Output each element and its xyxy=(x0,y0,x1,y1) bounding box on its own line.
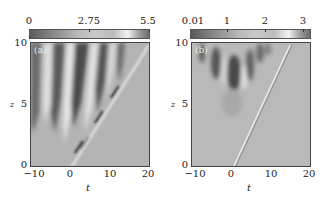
colorbar-a-tick xyxy=(29,36,30,39)
x-tick-label: 10 xyxy=(265,169,278,179)
y-tick-label: 5 xyxy=(13,99,27,109)
colorbar-b xyxy=(190,29,311,39)
y-tick-label: 10 xyxy=(13,38,27,48)
colorbar-b-tick xyxy=(303,29,304,32)
colorbar-a-tick xyxy=(149,29,150,32)
x-axis-label: t xyxy=(86,182,90,193)
heatmap-panel-a: (a) xyxy=(30,42,150,167)
colorbar-a-tick-label: 5.5 xyxy=(140,16,156,26)
colorbar-a-tick xyxy=(89,29,90,32)
heatmap-b-graphic xyxy=(192,43,311,167)
x-tick-label: 10 xyxy=(104,169,117,179)
x-tick-label: 20 xyxy=(142,169,155,179)
heatmap-a-graphic xyxy=(31,43,150,167)
x-tick-label: 20 xyxy=(303,169,316,179)
colorbar-b-tick xyxy=(227,29,228,32)
y-tick-label: 10 xyxy=(174,38,188,48)
colorbar-b-tick-label: 0.01 xyxy=(182,16,204,26)
x-tick-label: −10 xyxy=(184,169,205,179)
colorbar-b-tick-label: 1 xyxy=(224,16,230,26)
y-axis-label: z xyxy=(171,100,175,109)
colorbar-b-tick xyxy=(265,29,266,32)
x-tick-label: −10 xyxy=(23,169,44,179)
x-tick-label: 0 xyxy=(67,169,73,179)
x-axis-label: t xyxy=(247,182,251,193)
x-tick-label: 0 xyxy=(228,169,234,179)
heatmap-panel-b: (b) xyxy=(191,42,311,167)
y-axis-label: z xyxy=(10,100,14,109)
colorbar-b-tick-label: 2 xyxy=(262,16,268,26)
y-tick-label: 5 xyxy=(174,99,188,109)
colorbar-a-tick-label: 0 xyxy=(26,16,32,26)
panel-b-label: (b) xyxy=(195,45,208,55)
colorbar-a-tick-label: 2.75 xyxy=(78,16,100,26)
panel-a-label: (a) xyxy=(34,45,46,55)
colorbar-b-tick-label: 3 xyxy=(300,16,306,26)
